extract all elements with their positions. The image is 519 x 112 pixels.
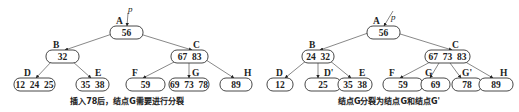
tree-node-h: 89 [220, 78, 252, 91]
diagram-caption: 插入78后，结点G需要进行分裂 [70, 96, 184, 106]
tree-edge [203, 58, 234, 78]
tree-node-d: 12 24 25 [14, 78, 55, 91]
node-name-label: G [425, 68, 433, 78]
diagram-before-split: p56A32B67 83C12 24 25D35 38E59F69 73 78G… [14, 4, 252, 106]
diagram-caption: 结点G分裂为结点G和结点G' [338, 96, 440, 106]
node-keys: 25 [318, 80, 328, 90]
node-keys: 32 [58, 52, 68, 62]
tree-edge [397, 33, 452, 50]
tree-node-a: 56 [367, 26, 400, 39]
node-name-label: A [373, 16, 380, 26]
node-name-label: G [192, 68, 200, 78]
node-name-label: F [389, 68, 395, 78]
tree-node-e: 35 38 [76, 78, 109, 91]
node-keys: 89 [231, 80, 241, 90]
node-name-label: B [53, 40, 60, 50]
node-keys: 56 [379, 28, 389, 38]
tree-node-h: 89 [479, 78, 513, 91]
tree-edge [65, 34, 112, 50]
node-name-label: D [24, 68, 31, 78]
tree-node-b: 24 32 [302, 50, 334, 63]
tree-node-d2: 25 [305, 78, 341, 91]
tree-edge [36, 61, 52, 78]
node-name-label: A [116, 16, 123, 26]
node-keys: 35 38 [81, 80, 105, 90]
node-name-label: B [309, 40, 316, 50]
node-keys: 35 38 [343, 80, 367, 90]
root-pointer-label: p [127, 4, 133, 14]
node-name-label: E [359, 68, 365, 78]
node-name-label: G' [462, 68, 472, 78]
tree-node-b: 32 [46, 50, 79, 63]
node-name-label: C [193, 40, 200, 50]
diagram-after-split: p56A24 32B67 73 83C12D25D'35 38E59F69G78… [267, 11, 513, 106]
node-name-label: H [244, 68, 252, 78]
node-keys: 67 83 [178, 52, 202, 62]
node-keys: 59 [141, 80, 151, 90]
b-tree-split-diagram: p56A32B67 83C12 24 25D35 38E59F69 73 78G… [0, 0, 519, 112]
node-keys: 69 73 78 [170, 80, 208, 90]
tree-node-c: 67 83 [171, 50, 208, 63]
node-keys: 67 73 83 [429, 52, 467, 62]
node-keys: 12 [275, 80, 285, 90]
node-keys: 89 [491, 80, 501, 90]
tree-node-a: 56 [110, 26, 143, 39]
tree-node-g: 69 73 78 [169, 78, 209, 91]
root-pointer-arrow [127, 13, 128, 26]
tree-node-e: 35 38 [338, 78, 372, 91]
tree-node-f: 59 [383, 78, 423, 91]
node-keys: 78 [462, 80, 472, 90]
node-name-label: D' [324, 68, 334, 78]
tree-edge [285, 60, 307, 78]
node-keys: 24 32 [306, 52, 330, 62]
tree-edge [72, 61, 91, 78]
tree-edge [320, 33, 368, 50]
node-keys: 59 [398, 80, 408, 90]
node-keys: 69 [431, 80, 441, 90]
node-name-label: F [132, 68, 138, 78]
root-pointer-label: p [390, 12, 396, 22]
tree-node-d: 12 [267, 78, 293, 91]
tree-edge [143, 60, 178, 78]
node-keys: 12 24 25 [16, 80, 54, 90]
tree-edge [450, 63, 461, 78]
tree-edge [140, 34, 192, 50]
tree-node-g2: 78 [452, 78, 482, 91]
node-name-label: H [500, 68, 508, 78]
tree-node-f: 59 [126, 78, 165, 91]
node-name-label: C [452, 40, 459, 50]
node-keys: 56 [122, 28, 132, 38]
tree-node-c: 67 73 83 [425, 50, 470, 63]
node-name-label: E [95, 68, 101, 78]
node-name-label: D [276, 68, 283, 78]
tree-node-g: 69 [421, 78, 450, 91]
